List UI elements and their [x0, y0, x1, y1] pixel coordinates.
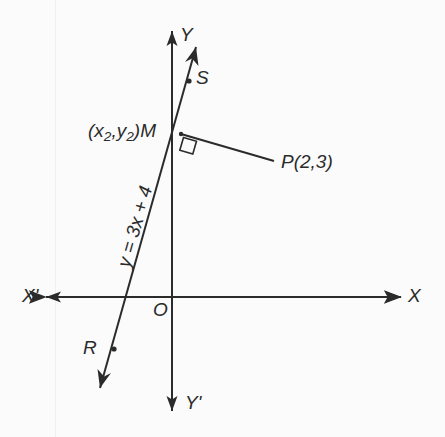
- axis-label-y-positive: Y: [180, 25, 193, 44]
- axis-label-x-negative: X': [22, 286, 38, 305]
- axis-label-y-negative: Y': [185, 393, 201, 412]
- coord-mid: ,y: [111, 120, 126, 141]
- point-M-dot: [179, 132, 183, 136]
- point-label-M-with-coords: (x2,y2)M: [88, 121, 156, 144]
- point-R-dot: [111, 346, 116, 351]
- geometry-figure: X' X Y Y' O S R P(2,3) (x2,y2)M y = 3x +…: [0, 0, 445, 437]
- coord-open: (x: [88, 120, 104, 141]
- diagram-canvas: [0, 0, 445, 437]
- coord-sub-y: 2: [126, 129, 134, 144]
- point-label-M: M: [140, 120, 156, 141]
- point-label-R: R: [83, 338, 97, 357]
- point-label-P: P(2,3): [281, 152, 333, 171]
- axis-label-x-positive: X: [408, 286, 421, 305]
- point-S-dot: [186, 78, 191, 83]
- point-label-S: S: [196, 68, 209, 87]
- right-angle-marker-icon: [180, 138, 197, 155]
- origin-label: O: [153, 300, 168, 319]
